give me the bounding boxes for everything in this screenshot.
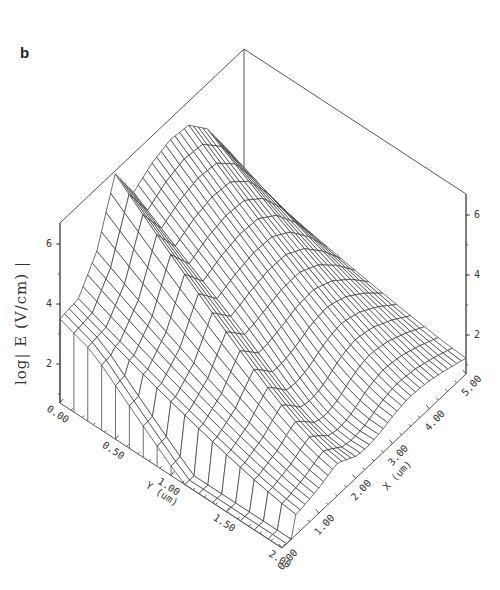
svg-text:0.00: 0.00 <box>45 403 71 425</box>
svg-text:2: 2 <box>46 358 52 369</box>
svg-text:0.50: 0.50 <box>100 439 126 461</box>
svg-text:2: 2 <box>474 329 480 340</box>
svg-text:4: 4 <box>474 269 480 280</box>
svg-text:4: 4 <box>46 298 52 309</box>
svg-text:6: 6 <box>46 238 52 249</box>
svg-text:6: 6 <box>474 209 480 220</box>
surface-plot: 0.000.501.001.502.000.001.002.003.004.00… <box>0 0 500 590</box>
wireframe-surface <box>60 125 466 548</box>
